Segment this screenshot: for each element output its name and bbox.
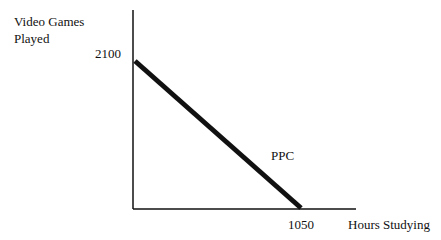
ppc-chart xyxy=(0,0,441,240)
x-tick-label: 1050 xyxy=(288,216,314,233)
y-axis-label-line2: Played xyxy=(14,30,49,47)
y-tick-label: 2100 xyxy=(95,45,121,62)
y-axis-label-line1: Video Games xyxy=(14,13,84,30)
ppc-line xyxy=(135,61,301,208)
ppc-curve-label: PPC xyxy=(271,147,294,164)
x-axis-label: Hours Studying xyxy=(348,216,430,233)
